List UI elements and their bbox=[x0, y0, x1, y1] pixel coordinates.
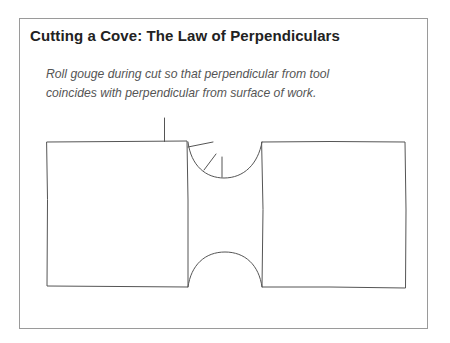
tool-line-1 bbox=[188, 142, 213, 147]
bottom-cove bbox=[188, 252, 262, 287]
left-block bbox=[47, 141, 188, 287]
tool-line-2 bbox=[204, 154, 216, 170]
right-block bbox=[262, 142, 406, 289]
top-cove bbox=[188, 142, 262, 178]
cove-diagram bbox=[0, 0, 450, 343]
